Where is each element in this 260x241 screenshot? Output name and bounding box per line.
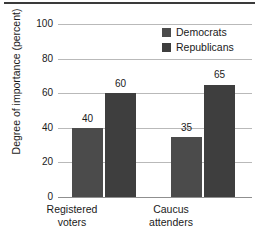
axis-baseline (58, 197, 252, 198)
y-tick-label-60: 60 (13, 88, 53, 98)
y-tick-label-80: 80 (13, 54, 53, 64)
y-tick-label-20: 20 (13, 157, 53, 167)
x-axis-label-caucus-attenders-line1: Caucus (116, 203, 226, 216)
legend-label-republicans: Republicans (176, 42, 234, 53)
y-tick-label-100: 100 (13, 19, 53, 29)
x-axis-label-caucus-attenders: Caucus attenders (116, 203, 226, 229)
bar-chart-figure: Degree of importance (percent) 40 60 35 … (0, 0, 260, 241)
x-axis-label-caucus-attenders-line2: attenders (116, 216, 226, 229)
legend-label-democrats: Democrats (176, 27, 227, 38)
legend-item-republicans: Republicans (162, 42, 234, 53)
legend-swatch-democrats-icon (162, 28, 171, 37)
legend-swatch-republicans-icon (162, 43, 171, 52)
y-tick-label-0: 0 (13, 192, 53, 202)
top-divider-rule (4, 2, 255, 4)
y-tick-label-40: 40 (13, 123, 53, 133)
x-axis-label-registered-voters-line2: voters (17, 216, 127, 229)
chart-legend: Democrats Republicans (162, 27, 234, 53)
legend-item-democrats: Democrats (162, 27, 234, 38)
x-axis-label-registered-voters-line1: Registered (17, 203, 127, 216)
x-axis-label-registered-voters: Registered voters (17, 203, 127, 229)
